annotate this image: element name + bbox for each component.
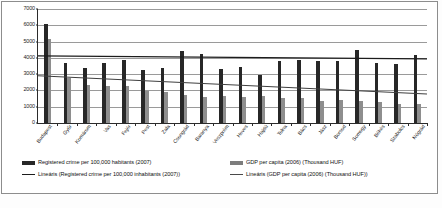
- x-axis-labels: BudapestGyőrKomáromVasFejérPestZalaCsong…: [37, 124, 429, 158]
- legend-item-gdp-line: Lineáris (GDP per capita (2006) (Thousan…: [230, 172, 368, 178]
- legend-label-crime-line: Lineáris (Registered crime per 100,000 i…: [38, 172, 180, 178]
- bar-gdp: [242, 97, 246, 123]
- x-axis-label: Baranya: [194, 124, 210, 142]
- x-axis-label: Hajdú: [257, 124, 269, 138]
- bar-gdp: [126, 86, 130, 123]
- legend-label-gdp-line: Lineáris (GDP per capita (2006) (Thousan…: [246, 172, 368, 178]
- x-axis-label: Heves: [236, 124, 249, 139]
- bar-gdp: [417, 104, 421, 123]
- legend-row-trendlines: Lineáris (Registered crime per 100,000 i…: [8, 172, 432, 184]
- bar-group: [252, 9, 271, 123]
- legend-label-crime-bar: Registered crime per 100,000 habitants (…: [38, 160, 151, 166]
- legend-item-crime-bar: Registered crime per 100,000 habitants (…: [22, 160, 151, 166]
- x-axis-label: Zala: [161, 124, 171, 135]
- bar-group: [330, 9, 349, 123]
- legend-item-crime-line: Lineáris (Registered crime per 100,000 i…: [22, 172, 180, 178]
- bar-gdp: [67, 78, 71, 123]
- plot-area: 01000200030004000500060007000: [37, 9, 427, 124]
- y-tick-label: 2000: [23, 88, 35, 93]
- x-axis-label: Győr: [62, 124, 73, 136]
- bar-group: [349, 9, 368, 123]
- bar-gdp: [378, 102, 382, 123]
- bar-gdp: [339, 100, 343, 123]
- y-tick-label: 4000: [23, 55, 35, 60]
- bar-group: [291, 9, 310, 123]
- x-axis-label: Budapest: [36, 124, 53, 144]
- bar-gdp: [164, 92, 168, 123]
- bar-gdp: [48, 39, 52, 123]
- bar-gdp: [145, 91, 149, 123]
- x-axis-label: Fejér: [120, 124, 131, 136]
- figure-caption: [5, 196, 435, 206]
- bar-group: [135, 9, 154, 123]
- bar-gdp: [106, 86, 110, 123]
- x-axis-label: Veszprém: [212, 124, 230, 145]
- chart-legend: Registered crime per 100,000 habitants (…: [8, 160, 432, 190]
- y-tick-label: 0: [32, 120, 35, 125]
- gdp-bar-swatch-icon: [230, 161, 243, 166]
- bar-group: [38, 9, 57, 123]
- bar-group: [213, 9, 232, 123]
- chart-figure: 01000200030004000500060007000 BudapestGy…: [0, 0, 442, 208]
- legend-item-gdp-bar: GDP per capita (2006) (Thousand HUF): [230, 160, 343, 166]
- y-tick-label: 5000: [23, 39, 35, 44]
- x-axis-label: Csongrád: [173, 124, 191, 145]
- bar-gdp: [398, 104, 402, 123]
- bar-group: [174, 9, 193, 123]
- x-axis-label: Békés: [374, 124, 387, 138]
- x-axis-label: Borsod: [333, 124, 347, 140]
- bar-group: [271, 9, 290, 123]
- bar-group: [77, 9, 96, 123]
- y-tick-label: 3000: [23, 71, 35, 76]
- bar-group: [194, 9, 213, 123]
- y-tick-label: 1000: [23, 104, 35, 109]
- bar-gdp: [359, 101, 363, 123]
- bar-group: [369, 9, 388, 123]
- x-axis-label: Somogy: [351, 124, 367, 142]
- bar-gdp: [184, 95, 188, 123]
- bar-gdp: [320, 101, 324, 123]
- bar-group: [116, 9, 135, 123]
- x-axis-label: Vas: [103, 124, 112, 134]
- y-tick-label: 7000: [23, 6, 35, 11]
- bar-group: [57, 9, 76, 123]
- crime-bar-swatch-icon: [22, 161, 35, 166]
- x-axis-label: Tolna: [277, 124, 289, 137]
- bar-gdp: [262, 96, 266, 123]
- bar-group: [155, 9, 174, 123]
- x-axis-label: Szabolcs: [389, 124, 406, 143]
- y-tick-label: 6000: [23, 23, 35, 28]
- bar-group: [388, 9, 407, 123]
- bar-group: [233, 9, 252, 123]
- bar-group: [310, 9, 329, 123]
- bar-gdp: [281, 98, 285, 123]
- bar-group: [96, 9, 115, 123]
- x-axis-label: Bács: [297, 124, 308, 136]
- x-axis-label: Nógrád: [411, 124, 425, 140]
- plot-area-wrapper: 01000200030004000500060007000: [6, 6, 431, 124]
- bar-gdp: [301, 98, 305, 123]
- x-axis-label: Jász: [317, 124, 328, 135]
- bar-group: [408, 9, 427, 123]
- legend-label-gdp-bar: GDP per capita (2006) (Thousand HUF): [246, 160, 343, 166]
- x-axis-label: Komárom: [75, 124, 93, 145]
- bar-gdp: [87, 85, 91, 123]
- gdp-trendline-key-icon: [230, 174, 243, 175]
- x-axis-label: Pest: [141, 124, 151, 135]
- bar-gdp: [203, 97, 207, 123]
- bar-gdp: [223, 96, 227, 123]
- crime-trendline-key-icon: [22, 174, 35, 175]
